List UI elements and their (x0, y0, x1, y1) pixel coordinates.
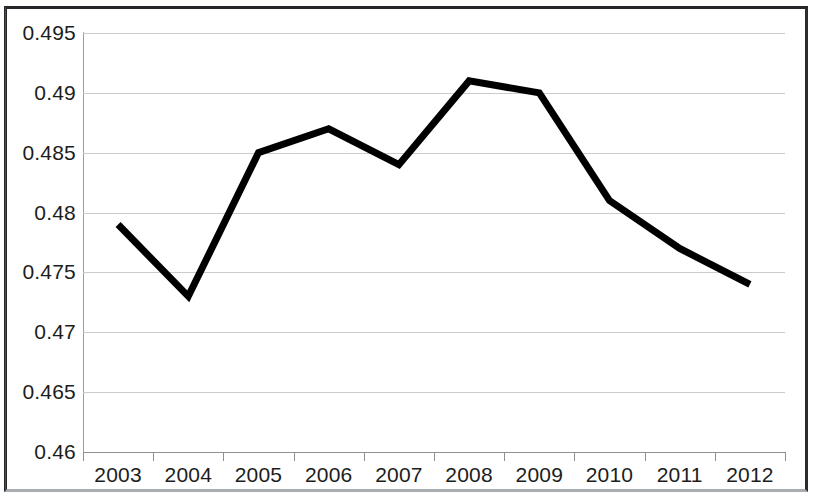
x-axis-tick (434, 452, 435, 461)
x-axis-tick (645, 452, 646, 461)
x-axis-tick-label: 2005 (223, 464, 293, 485)
x-axis-tick-label: 2003 (83, 464, 153, 485)
x-axis-tick-label: 2009 (504, 464, 574, 485)
y-axis-tick-label: 0.485 (22, 142, 76, 163)
y-axis-tick-label: 0.47 (34, 321, 76, 342)
chart-screenshot: 0.4950.490.4850.480.4750.470.4650.46 200… (0, 0, 814, 504)
plot-area (83, 33, 785, 452)
line-chart: 0.4950.490.4850.480.4750.470.4650.46 200… (0, 0, 814, 504)
x-axis-tick (504, 452, 505, 461)
x-axis-tick-label: 2004 (153, 464, 223, 485)
x-axis-tick (223, 452, 224, 461)
x-axis-tick (785, 452, 786, 461)
x-axis-tick-label: 2008 (434, 464, 504, 485)
y-axis-tick-label: 0.465 (22, 381, 76, 402)
y-axis-tick-label: 0.495 (22, 22, 76, 43)
y-axis-tick-label: 0.46 (34, 441, 76, 462)
x-axis-tick (364, 452, 365, 461)
x-axis-tick-label: 2010 (574, 464, 644, 485)
y-axis-tick-label: 0.475 (22, 261, 76, 282)
x-axis-tick-label: 2007 (364, 464, 434, 485)
x-axis-tick (715, 452, 716, 461)
x-axis-tick (574, 452, 575, 461)
x-axis-tick (294, 452, 295, 461)
y-axis-labels: 0.4950.490.4850.480.4750.470.4650.46 (0, 0, 76, 504)
data-series-line (83, 33, 785, 452)
x-axis-tick-label: 2012 (715, 464, 785, 485)
x-axis-labels: 2003200420052006200720082009201020112012 (83, 464, 785, 498)
y-axis-tick-label: 0.48 (34, 202, 76, 223)
x-axis-tick (153, 452, 154, 461)
x-axis-tick (83, 452, 84, 461)
x-axis-tick-label: 2006 (294, 464, 364, 485)
x-axis-tick-label: 2011 (645, 464, 715, 485)
y-axis-tick-label: 0.49 (34, 82, 76, 103)
